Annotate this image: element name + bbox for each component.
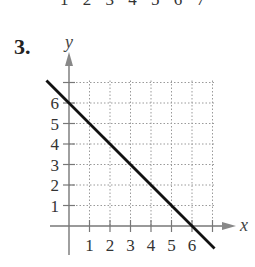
x-tick-label: 3 (126, 236, 135, 255)
y-tick-label: 6 (51, 94, 60, 113)
x-tick-label: 2 (106, 236, 115, 255)
x-tick-label: 5 (167, 236, 176, 255)
y-tick-label: 5 (51, 115, 60, 134)
y-axis-label: y (63, 32, 73, 52)
y-tick-label: 3 (51, 156, 60, 175)
y-tick-label: 1 (51, 197, 60, 216)
tick-marks (63, 83, 213, 233)
y-tick-label: 4 (51, 135, 60, 154)
x-tick-label: 1 (85, 236, 94, 255)
line-graph: yx123456123456 (0, 0, 255, 267)
x-axis-arrow-icon (222, 222, 236, 230)
x-tick-label: 4 (147, 236, 156, 255)
x-axis-label: x (239, 215, 248, 235)
x-tick-label: 6 (188, 236, 197, 255)
y-tick-label: 2 (51, 176, 60, 195)
y-axis-arrow-icon (65, 52, 73, 66)
gridlines (69, 81, 216, 227)
